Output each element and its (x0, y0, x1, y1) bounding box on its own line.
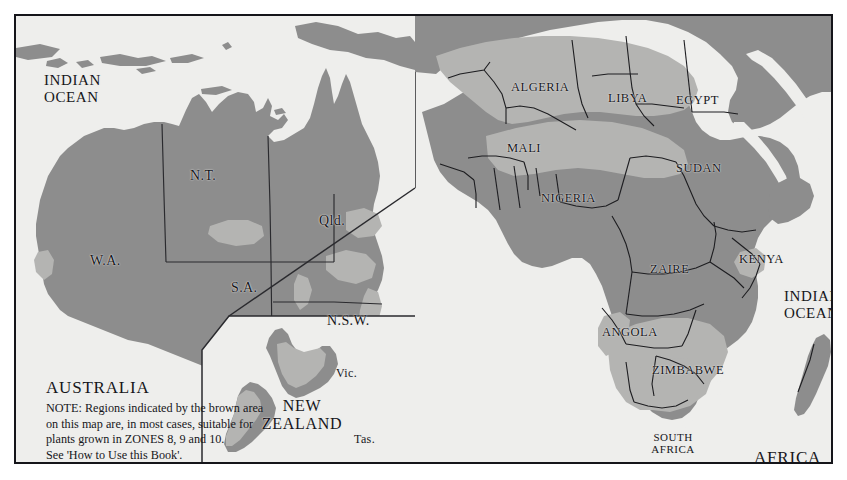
australia-note-body: NOTE: Regions indicated by the brown are… (46, 401, 336, 463)
note-line-2: on this map are, in most cases, suitable… (46, 417, 336, 433)
label-australia-title: AUSTRALIA (46, 378, 336, 398)
note-line-4: See 'How to Use this Book'. (46, 448, 336, 464)
map-frame-border: INDIAN OCEAN N.T. W.A. Qld. S.A. N.S.W. … (14, 14, 833, 464)
australia-note-block: AUSTRALIA NOTE: Regions indicated by the… (46, 378, 336, 463)
map-root: INDIAN OCEAN N.T. W.A. Qld. S.A. N.S.W. … (0, 0, 847, 480)
note-line-1: NOTE: Regions indicated by the brown are… (46, 401, 336, 417)
note-line-3: plants grown in ZONES 8, 9 and 10. (46, 432, 336, 448)
